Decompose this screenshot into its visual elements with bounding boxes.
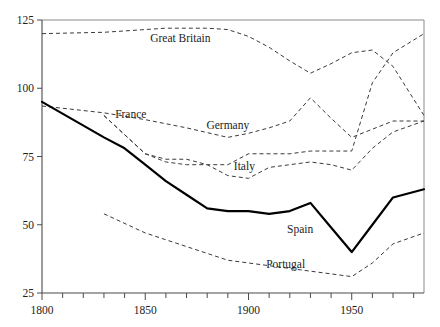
y-axis: 255075100125 <box>17 14 42 299</box>
series-label-portugal: Portugal <box>266 258 305 271</box>
y-tick-label: 100 <box>17 82 35 94</box>
y-tick-label: 125 <box>17 14 35 26</box>
plot-frame <box>42 20 424 293</box>
x-tick-label: 1850 <box>134 304 157 316</box>
x-tick-label: 1800 <box>31 304 54 316</box>
series-label-germany: Germany <box>206 119 249 132</box>
series-lines <box>42 28 424 276</box>
x-tick-label: 1900 <box>237 304 260 316</box>
y-tick-label: 75 <box>23 151 35 163</box>
series-label-great-britain: Great Britain <box>150 32 211 44</box>
plot-frame-border <box>42 20 424 293</box>
y-tick-label: 50 <box>23 219 35 231</box>
series-label-spain: Spain <box>287 223 313 236</box>
y-tick-label: 25 <box>23 287 35 299</box>
line-chart: 255075100125 1800185019001950 Great Brit… <box>0 0 440 327</box>
series-label-italy: Italy <box>234 160 255 173</box>
chart-canvas: 255075100125 1800185019001950 Great Brit… <box>0 0 440 327</box>
series-label-france: France <box>115 108 146 120</box>
series-labels: Great BritainFranceGermanyItalySpainPort… <box>115 32 313 272</box>
x-tick-label: 1950 <box>340 304 363 316</box>
x-axis: 1800185019001950 <box>31 293 425 316</box>
series-line-france <box>42 98 424 138</box>
series-line-portugal <box>104 214 424 277</box>
